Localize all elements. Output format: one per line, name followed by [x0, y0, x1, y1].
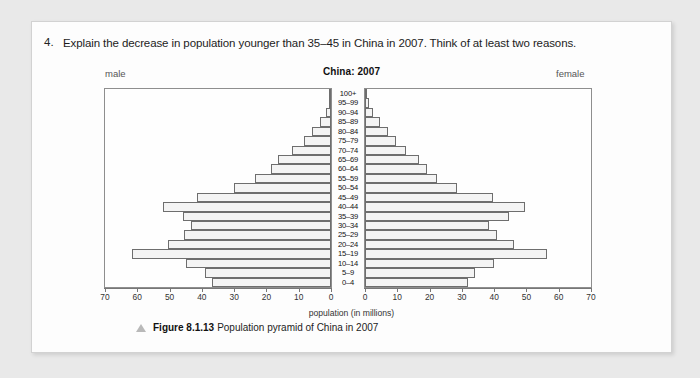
pyramid-row: [365, 240, 591, 249]
pyramid-row: [105, 183, 331, 192]
pyramid-bar-female-30_34: [365, 221, 489, 230]
figure-number: Figure 8.1.13: [153, 322, 214, 333]
x-axis-caption: population (in millions): [32, 308, 671, 318]
pyramid-bar-female-70_74: [365, 146, 406, 155]
pyramid-row: [105, 278, 331, 287]
axis-tick-label: 50: [522, 292, 531, 302]
pyramid-row: [365, 117, 591, 126]
pyramid-row: [365, 230, 591, 239]
pyramid-row: [365, 212, 591, 221]
age-label-85_89: 85–89: [332, 117, 364, 126]
age-label-25_29: 25–29: [332, 230, 364, 239]
pyramid-row: [365, 183, 591, 192]
pyramid-row: [105, 193, 331, 202]
axis-tick-label: 30: [229, 292, 238, 302]
pyramid-bar-female-15_19: [365, 249, 547, 258]
male-plot-area: [104, 88, 332, 288]
age-label-70_74: 70–74: [332, 146, 364, 155]
pyramid-row: [365, 221, 591, 230]
pyramid-row: [105, 146, 331, 155]
axis-tick-label: 40: [197, 292, 206, 302]
axis-tick: [202, 288, 203, 292]
pyramid-row: [105, 240, 331, 249]
pyramid-bar-male-0_4: [212, 278, 331, 287]
triangle-icon: [136, 324, 146, 332]
axis-tick-label: 0: [329, 292, 334, 302]
pyramid-bar-male-5_9: [205, 268, 331, 277]
pyramid-bar-male-40_44: [163, 202, 331, 211]
pyramid-row: [105, 174, 331, 183]
pyramid-bar-male-90_94: [326, 108, 331, 117]
male-bars: [105, 89, 331, 287]
axis-tick: [365, 288, 366, 292]
pyramid-bar-male-20_24: [168, 240, 331, 249]
pyramid-row: [105, 136, 331, 145]
male-x-axis: 706050403020100: [104, 288, 332, 304]
axis-tick-label: 60: [554, 292, 563, 302]
pyramid-row: [105, 221, 331, 230]
question-text: Explain the decrease in population young…: [63, 36, 576, 50]
pyramid-row: [105, 249, 331, 258]
pyramid-row: [105, 98, 331, 107]
figure-block: China: 2007 male female 100+95–9990–9485…: [32, 66, 671, 346]
age-label-10_14: 10–14: [332, 259, 364, 268]
pyramid-bar-female-95_99: [365, 98, 369, 107]
pyramid-row: [365, 164, 591, 173]
pyramid-bar-male-100+: [329, 89, 331, 98]
pyramid-row: [105, 164, 331, 173]
pyramid-bar-female-40_44: [365, 202, 525, 211]
pyramid-row: [105, 202, 331, 211]
female-bars: [365, 89, 591, 287]
axis-tick: [266, 288, 267, 292]
axis-tick-label: 70: [586, 292, 595, 302]
axis-tick: [105, 288, 106, 292]
axis-tick-label: 60: [133, 292, 142, 302]
pyramid-bar-female-60_64: [365, 164, 427, 173]
pyramid-bar-male-10_14: [186, 259, 331, 268]
pyramid-bar-male-25_29: [184, 230, 331, 239]
pyramid-row: [105, 259, 331, 268]
pyramid-row: [365, 193, 591, 202]
age-label-35_39: 35–39: [332, 212, 364, 221]
axis-tick: [397, 288, 398, 292]
male-axis-label: male: [105, 68, 126, 79]
age-label-60_64: 60–64: [332, 164, 364, 173]
pyramid-bar-female-90_94: [365, 108, 373, 117]
axis-tick: [299, 288, 300, 292]
female-axis-label: female: [556, 68, 585, 79]
exercise-card: 4. Explain the decrease in population yo…: [31, 21, 672, 353]
pyramid-bar-female-55_59: [365, 174, 437, 183]
pyramid-bar-female-65_69: [365, 155, 419, 164]
pyramid-bar-female-0_4: [365, 278, 468, 287]
pyramid-row: [365, 127, 591, 136]
age-label-90_94: 90–94: [332, 108, 364, 117]
age-label-50_54: 50–54: [332, 183, 364, 192]
axis-tick-label: 30: [457, 292, 466, 302]
axis-tick: [526, 288, 527, 292]
pyramid-row: [105, 127, 331, 136]
pyramid-row: [365, 202, 591, 211]
pyramid-bar-male-65_69: [278, 155, 331, 164]
pyramid-row: [365, 89, 591, 98]
axis-tick: [331, 288, 332, 292]
pyramid-bar-male-55_59: [255, 174, 331, 183]
axis-tick: [430, 288, 431, 292]
pyramid-bar-male-15_19: [132, 249, 331, 258]
pyramid-bar-female-10_14: [365, 259, 494, 268]
pyramid-row: [365, 146, 591, 155]
age-label-40_44: 40–44: [332, 202, 364, 211]
axis-tick-label: 10: [393, 292, 402, 302]
page-root: 4. Explain the decrease in population yo…: [0, 0, 700, 378]
question-block: 4. Explain the decrease in population yo…: [44, 36, 654, 50]
axis-tick: [559, 288, 560, 292]
pyramid-row: [365, 108, 591, 117]
pyramid-bar-female-35_39: [365, 212, 509, 221]
pyramid-row: [105, 212, 331, 221]
axis-tick-label: 20: [425, 292, 434, 302]
female-x-axis: 010203040506070: [364, 288, 592, 304]
pyramid-row: [105, 155, 331, 164]
age-label-30_34: 30–34: [332, 221, 364, 230]
pyramid-bar-female-80_84: [365, 127, 388, 136]
pyramid-row: [105, 117, 331, 126]
axis-tick: [234, 288, 235, 292]
